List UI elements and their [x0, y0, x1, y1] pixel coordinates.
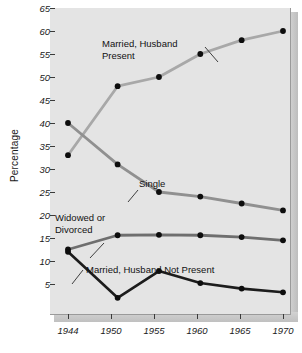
ann-married-husband-present-line2: Present: [102, 50, 178, 62]
ann-married-husband-present: Married, Husband Present: [102, 38, 178, 61]
ann-widowed-or-divorced-line2: Divorced: [55, 224, 105, 236]
series-single: [65, 120, 286, 213]
leader-married-husband-not-present: [72, 270, 83, 284]
data-point: [197, 194, 203, 200]
ann-married-husband-not-present: Married, Husband Not Present: [86, 264, 214, 276]
data-point: [115, 83, 121, 89]
data-point: [156, 74, 162, 80]
data-point: [115, 295, 121, 301]
ann-widowed-or-divorced: Widowed or Divorced: [55, 212, 105, 235]
data-point: [239, 201, 245, 207]
data-point: [280, 289, 286, 295]
data-point: [280, 208, 286, 214]
data-point: [280, 28, 286, 34]
data-point: [115, 162, 121, 168]
ann-married-husband-not-present-line1: Married, Husband Not Present: [86, 264, 214, 276]
data-point: [156, 232, 162, 238]
data-point: [239, 234, 245, 240]
leader-widowed-or-divorced: [90, 243, 104, 258]
leader-single: [128, 190, 138, 202]
data-point: [197, 232, 203, 238]
data-point: [197, 280, 203, 286]
data-point: [115, 232, 121, 238]
data-point: [280, 237, 286, 243]
ann-widowed-or-divorced-line1: Widowed or: [55, 212, 105, 224]
data-point: [239, 286, 245, 292]
chart-figure: Percentage 65 60 55 50 45 40 35 30 25 20…: [0, 0, 302, 353]
data-point: [65, 249, 71, 255]
data-point: [65, 120, 71, 126]
ann-single-line1: Single: [139, 178, 165, 190]
data-point: [156, 189, 162, 195]
ann-married-husband-present-line1: Married, Husband: [102, 38, 178, 50]
data-point: [239, 37, 245, 43]
ann-single: Single: [139, 178, 165, 190]
series-line: [68, 123, 283, 210]
data-point: [65, 152, 71, 158]
data-point: [197, 51, 203, 57]
